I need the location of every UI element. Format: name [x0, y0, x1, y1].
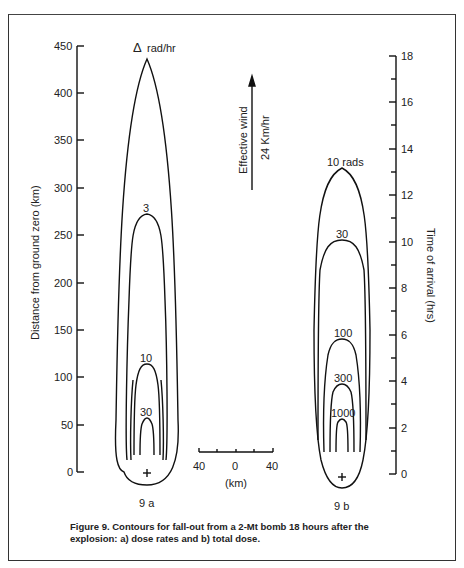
left-tick-100: 100	[54, 371, 72, 383]
contour-label-100-rads: 100	[334, 327, 352, 339]
contour-9a-inner-l	[131, 380, 133, 460]
left-tick-450: 450	[54, 40, 72, 52]
panel-label-9a: 9 a	[139, 497, 154, 509]
right-tick-6: 6	[401, 329, 407, 341]
panel-label-9b: 9 b	[334, 500, 349, 512]
scale-unit-label: (km)	[225, 477, 247, 489]
right-axis-title: Time of arrival (hrs)	[425, 228, 437, 323]
contour-9a-30	[140, 418, 154, 455]
contour-label-300-rads: 300	[334, 372, 352, 384]
left-tick-0: 0	[67, 466, 73, 478]
contour-9a-1	[115, 59, 178, 485]
left-axis-ticks	[77, 46, 84, 472]
left-tick-150: 150	[54, 324, 72, 336]
contour-9a-inner-r	[161, 380, 163, 460]
scale-tick-center: 0	[232, 460, 238, 472]
triangle-icon: Δ	[133, 40, 142, 55]
left-tick-400: 400	[54, 87, 72, 99]
wind-speed-label: 24 Km/hr	[259, 115, 271, 160]
right-tick-14: 14	[401, 143, 413, 155]
right-tick-4: 4	[401, 375, 407, 387]
left-tick-250: 250	[54, 229, 72, 241]
figure-caption: Figure 9. Contours for fall-out from a 2…	[70, 521, 400, 545]
wind-label: Effective wind	[237, 106, 249, 174]
right-tick-18: 18	[401, 50, 413, 62]
scale-tick-left: 40	[193, 460, 205, 472]
left-tick-50: 50	[61, 419, 73, 431]
left-unit-label: rad/hr	[147, 42, 176, 54]
contour-label-10: 10	[140, 352, 152, 364]
contour-9a-3	[126, 214, 167, 460]
right-tick-0: 0	[401, 468, 407, 480]
left-axis-title: Distance from ground zero (km)	[29, 185, 41, 340]
contour-label-30-rads: 30	[336, 228, 348, 240]
right-tick-8: 8	[401, 282, 407, 294]
contour-9b-1000	[336, 419, 348, 452]
contour-label-30: 30	[140, 406, 152, 418]
contour-9b-100	[324, 339, 361, 452]
contour-label-1000-rads: 1000	[331, 407, 355, 419]
left-tick-200: 200	[54, 277, 72, 289]
right-axis-ticks	[389, 56, 396, 474]
right-tick-2: 2	[401, 422, 407, 434]
scale-bar	[199, 448, 273, 452]
left-tick-350: 350	[54, 134, 72, 146]
right-tick-16: 16	[401, 96, 413, 108]
contour-label-10-rads: 10 rads	[327, 156, 364, 168]
right-tick-12: 12	[401, 189, 413, 201]
left-tick-300: 300	[54, 182, 72, 194]
scale-tick-right: 40	[266, 460, 278, 472]
contour-label-3: 3	[143, 202, 149, 214]
right-tick-10: 10	[401, 236, 413, 248]
